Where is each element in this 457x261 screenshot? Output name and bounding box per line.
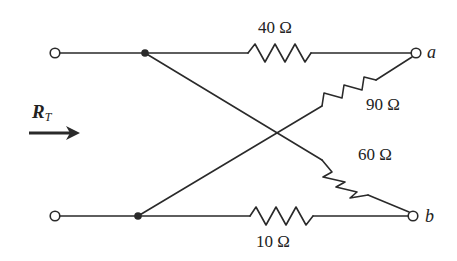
resistor-10-ohm: [250, 207, 313, 225]
left-top-terminal: [50, 48, 60, 58]
bottom-branch: 10 Ω: [59, 207, 408, 251]
bottom-junction-node: [134, 212, 142, 220]
rt-arrow-icon: [29, 126, 80, 140]
top-branch: 40 Ω: [59, 18, 411, 62]
diag-up-lower-wire: [138, 106, 322, 216]
diag-down-lower-wire: [368, 195, 409, 212]
terminal-a: [411, 48, 421, 58]
left-bottom-terminal: [50, 211, 60, 221]
terminal-b: [408, 211, 418, 221]
resistor-40-ohm-label: 40 Ω: [258, 18, 292, 37]
resistor-40-ohm: [248, 44, 311, 62]
top-junction-node: [141, 49, 149, 57]
rt-label: RT: [31, 101, 53, 124]
circuit-diagram: 40 Ω 10 Ω 90 Ω 60 Ω a b RT: [0, 0, 457, 261]
resistor-60-ohm: [322, 160, 368, 198]
terminal-a-label: a: [427, 42, 436, 62]
rt-label-subscript: T: [45, 110, 53, 124]
resistor-10-ohm-label: 10 Ω: [256, 232, 290, 251]
terminal-b-label: b: [425, 206, 434, 226]
rt-label-main: R: [31, 101, 45, 122]
diagonal-up-branch: 90 Ω: [138, 57, 412, 216]
diag-up-upper-wire: [376, 57, 412, 80]
resistor-60-ohm-label: 60 Ω: [358, 145, 392, 164]
diag-down-upper-wire: [145, 53, 322, 160]
resistor-90-ohm-label: 90 Ω: [366, 95, 400, 114]
